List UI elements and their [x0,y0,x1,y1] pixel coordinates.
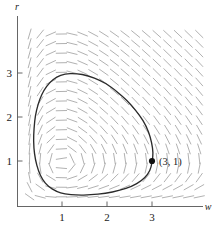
field-dash [198,144,201,154]
field-dash [121,50,129,57]
field-dash [132,59,140,66]
field-dash [70,154,74,163]
field-dash [99,185,109,189]
field-dash [28,86,30,96]
field-dash [166,144,169,154]
field-dash [80,163,84,172]
field-dash [197,125,202,134]
plot-canvas: 1 2 3 1 2 3 w r (3, 1) [0,0,223,234]
field-dash [195,185,204,190]
field-dash [67,176,77,179]
field-dash [40,153,41,163]
field-dash [122,116,129,124]
field-dash [165,135,170,144]
field-dash [133,126,139,135]
field-dash [29,106,31,116]
field-dash [67,90,77,93]
field-dash [111,126,118,134]
field-dash [36,184,44,190]
field-dash [143,97,150,105]
field-dash [111,98,119,105]
field-dash [99,31,108,37]
field-dash [196,173,202,181]
field-dash [152,185,161,190]
field-dash [132,31,140,38]
field-dash [28,67,31,77]
field-dash [156,163,158,173]
field-dash [29,134,30,144]
field-dash [110,69,118,75]
field-dash [89,126,97,133]
field-dash [39,163,41,173]
field-dash [184,196,194,198]
field-dash [174,69,181,77]
field-dash [196,40,203,47]
field-dash [156,153,157,163]
field-dash [78,42,88,46]
field-dash [111,174,118,181]
x-tick-label-2: 2 [104,211,110,223]
field-dash [144,144,148,154]
field-dash [39,144,42,154]
field-dash [89,79,98,84]
field-dash [28,96,30,106]
field-dash [46,51,55,55]
field-dash [28,39,31,49]
field-dash [185,97,192,105]
field-dash [134,144,138,154]
field-dash [46,61,55,65]
field-dash [143,78,150,85]
x-tick-label-1: 1 [59,211,65,223]
field-dash [198,163,200,173]
field-dash [28,29,31,39]
initial-condition-label: (3, 1) [159,156,182,168]
field-dash [101,135,107,143]
field-dash [91,163,95,173]
field-dash [89,41,98,46]
field-dash [46,196,56,197]
field-dash [48,145,54,153]
field-dash [174,50,181,57]
field-dash [37,30,44,38]
field-dash [196,49,203,56]
field-dash [29,144,30,154]
field-dash [176,135,181,144]
field-dash [132,78,140,85]
field-dash [29,125,31,135]
field-dash [187,144,190,154]
field-dash [122,135,127,144]
field-dash [100,174,108,181]
field-dash [164,50,172,57]
x-tick-label-3: 3 [149,211,155,223]
field-dash [29,163,30,173]
field-dash [67,109,77,112]
field-dash [175,116,181,125]
field-dash [185,40,192,47]
field-dash [114,153,116,163]
field-dash [111,116,118,124]
field-dash [67,128,77,132]
field-dash [88,186,98,189]
y-tick-label-2: 2 [7,111,13,123]
field-dash [186,125,191,134]
field-dash [196,87,203,95]
field-dash [142,59,150,66]
field-dash [100,60,109,66]
axes: 1 2 3 1 2 3 w r [7,1,212,223]
field-dash [145,163,147,173]
field-dash [186,106,192,114]
field-dash [134,163,136,173]
field-dash [173,196,183,198]
field-dash [184,185,193,190]
field-dash [89,32,98,37]
field-dash [111,107,118,114]
field-dash [113,163,116,173]
field-dash [133,135,138,144]
field-dash [153,40,161,47]
field-dash [67,42,77,44]
field-dash [102,163,105,173]
field-dash [29,173,31,183]
field-dash [89,70,98,75]
field-dash [91,144,96,153]
field-dash [79,136,87,143]
